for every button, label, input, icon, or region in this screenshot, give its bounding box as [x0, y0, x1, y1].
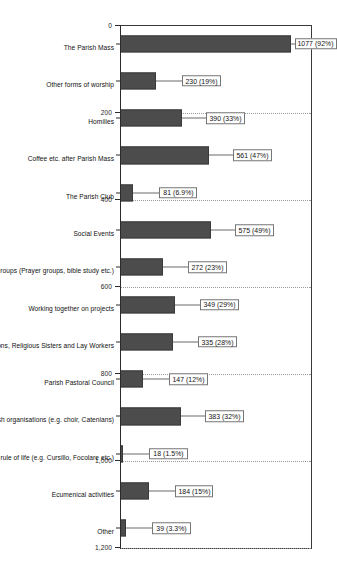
category-axis-tick	[116, 43, 120, 44]
label-leader-line	[126, 528, 152, 529]
category-axis-label: Parish organisations (e.g. choir, Cateni…	[0, 416, 114, 423]
data-label: 18 (1.5%)	[149, 448, 188, 460]
label-leader-line	[182, 118, 207, 119]
data-label-text: 230 (19%)	[185, 77, 217, 84]
data-label-text: 390 (33%)	[210, 115, 242, 122]
category-axis-tick	[116, 155, 120, 156]
category-axis-label: Other forms of worship	[46, 81, 114, 88]
category-axis-label: House Groups (Prayer groups, bible study…	[0, 267, 114, 274]
bar[interactable]	[120, 72, 156, 89]
bar-group[interactable]: 349 (29%)	[120, 286, 312, 323]
bar-group[interactable]: 184 (15%)	[120, 472, 312, 509]
bar[interactable]	[120, 184, 133, 201]
label-leader-line	[163, 267, 188, 268]
category-axis-tick	[116, 118, 120, 119]
data-label-text: 335 (28%)	[201, 338, 233, 345]
bar-group[interactable]: 272 (23%)	[120, 249, 312, 286]
category-tick-group: Ministry of Priests, Deacons, Religious …	[0, 323, 120, 360]
data-label-text: 349 (29%)	[203, 301, 235, 308]
bar-group[interactable]: 39 (3.3%)	[120, 510, 312, 547]
data-label: 272 (23%)	[188, 262, 227, 274]
category-axis: The Parish MassOther forms of worshipHom…	[0, 25, 120, 549]
category-tick-group: House Groups (Prayer groups, bible study…	[0, 249, 120, 286]
data-label-text: 383 (32%)	[209, 413, 241, 420]
bar-group[interactable]: 561 (47%)	[120, 137, 312, 174]
data-label: 81 (6.9%)	[159, 187, 198, 199]
data-label: 561 (47%)	[233, 150, 272, 162]
bar-group[interactable]: 18 (1.5%)	[120, 435, 312, 472]
category-axis-tick	[116, 304, 120, 305]
category-tick-group: The Parish Mass	[0, 25, 120, 62]
label-leader-line	[211, 230, 235, 231]
category-axis-tick	[116, 192, 120, 193]
category-axis-label: Homilies	[88, 118, 114, 125]
category-axis-label: Ecumenical activities	[52, 491, 114, 498]
value-axis: 02004006008001,0001,200	[120, 25, 121, 549]
bar-group[interactable]: 335 (28%)	[120, 323, 312, 360]
data-label: 39 (3.3%)	[152, 523, 191, 535]
data-label-text: 272 (23%)	[192, 264, 224, 271]
bar-group[interactable]: 230 (19%)	[120, 62, 312, 99]
bar-group[interactable]: 1077 (92%)	[120, 25, 312, 62]
bar[interactable]	[120, 408, 181, 425]
category-axis-label: The Parish Club	[66, 193, 114, 200]
category-tick-group: Parish organisations (e.g. choir, Cateni…	[0, 398, 120, 435]
bar-group[interactable]: 390 (33%)	[120, 100, 312, 137]
category-tick-group: Groups with a pattern/ rule of life (e.g…	[0, 435, 120, 472]
data-label: 383 (32%)	[205, 411, 244, 423]
data-label: 575 (49%)	[235, 224, 274, 236]
bar[interactable]	[120, 371, 143, 388]
bar-group[interactable]: 147 (12%)	[120, 361, 312, 398]
bar-group[interactable]: 81 (6.9%)	[120, 174, 312, 211]
category-axis-label: Ministry of Priests, Deacons, Religious …	[0, 342, 114, 349]
data-label: 390 (33%)	[207, 112, 246, 124]
category-tick-group: Other forms of worship	[0, 62, 120, 99]
bar[interactable]	[120, 110, 182, 127]
data-label-text: 1077 (92%)	[298, 40, 334, 47]
data-label-text: 18 (1.5%)	[153, 450, 183, 457]
category-axis-tick	[116, 379, 120, 380]
data-label-text: 184 (15%)	[178, 488, 210, 495]
category-axis-tick	[116, 267, 120, 268]
bar[interactable]	[120, 296, 175, 313]
label-leader-line	[181, 416, 206, 417]
category-axis-label: Groups with a pattern/ rule of life (e.g…	[0, 454, 114, 461]
label-leader-line	[143, 379, 169, 380]
label-leader-line	[149, 491, 174, 492]
label-leader-line	[133, 192, 159, 193]
bar[interactable]	[120, 482, 149, 499]
data-label: 1077 (92%)	[295, 38, 337, 50]
data-label-text: 147 (12%)	[172, 376, 204, 383]
data-label: 335 (28%)	[198, 336, 237, 348]
label-leader-line	[209, 155, 233, 156]
category-axis-tick	[116, 80, 120, 81]
bar[interactable]	[120, 221, 211, 238]
category-axis-label: Social Events	[73, 230, 114, 237]
category-tick-group: Ecumenical activities	[0, 472, 120, 509]
label-leader-line	[173, 341, 198, 342]
category-tick-group: Social Events	[0, 211, 120, 248]
bar-group[interactable]: 575 (49%)	[120, 211, 312, 248]
category-axis-tick	[116, 416, 120, 417]
bar[interactable]	[120, 259, 163, 276]
bar[interactable]	[120, 333, 173, 350]
category-tick-group: Coffee etc. after Parish Mass	[0, 137, 120, 174]
bar[interactable]	[120, 147, 209, 164]
bars-layer: 1077 (92%)230 (19%)390 (33%)561 (47%)81 …	[120, 25, 312, 549]
data-label: 230 (19%)	[182, 75, 221, 87]
data-label-text: 39 (3.3%)	[156, 525, 186, 532]
data-label-text: 575 (49%)	[239, 227, 271, 234]
category-axis-label: Working together on projects	[28, 305, 114, 312]
category-axis-tick	[116, 528, 120, 529]
category-axis-tick	[116, 230, 120, 231]
data-label: 349 (29%)	[200, 299, 239, 311]
label-leader-line	[123, 453, 149, 454]
category-axis-label: Parish Pastoral Council	[44, 379, 114, 386]
bar-group[interactable]: 383 (32%)	[120, 398, 312, 435]
category-tick-group: Parish Pastoral Council	[0, 361, 120, 398]
category-tick-group: Working together on projects	[0, 286, 120, 323]
data-label: 147 (12%)	[169, 373, 208, 385]
bar[interactable]	[120, 35, 291, 52]
label-leader-line	[175, 304, 200, 305]
